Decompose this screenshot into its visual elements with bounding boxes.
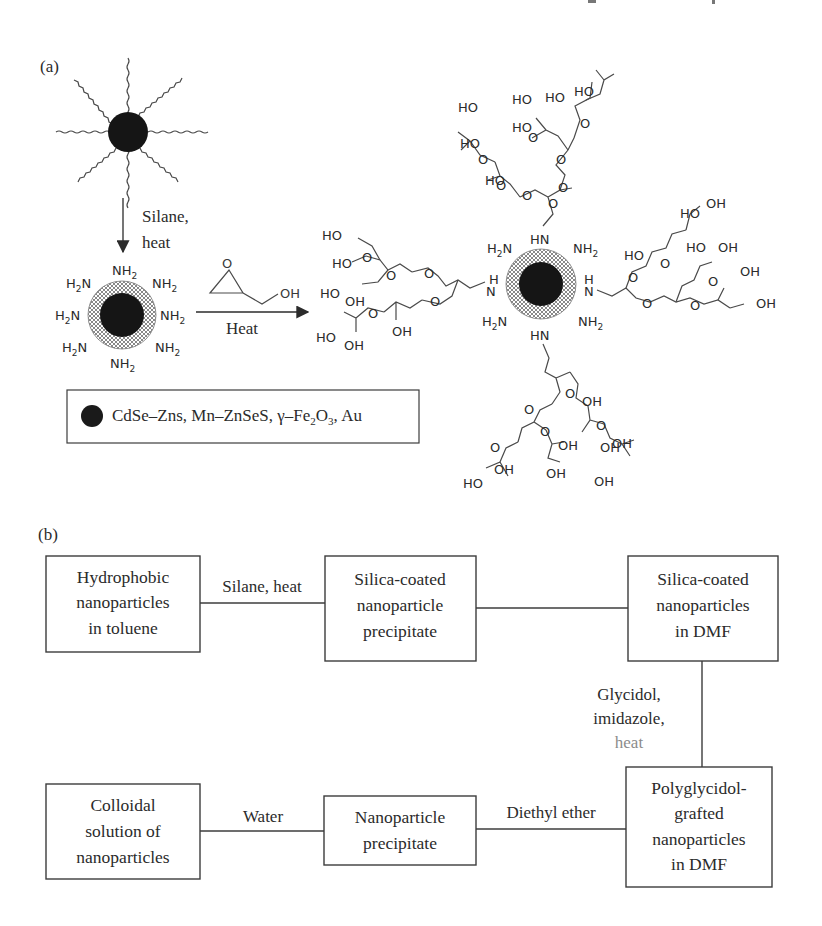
svg-text:O: O [708, 274, 718, 289]
svg-text:HO: HO [574, 84, 594, 99]
svg-text:H2N: H2N [62, 340, 87, 358]
svg-text:OH: OH [740, 264, 760, 279]
svg-text:O: O [628, 270, 638, 285]
svg-text:HO: HO [322, 228, 342, 243]
svg-text:O: O [424, 266, 434, 281]
svg-text:O: O [642, 296, 652, 311]
step2-condition: Heat [226, 319, 258, 338]
svg-text:nanoparticles: nanoparticles [76, 847, 169, 867]
svg-text:nanoparticle: nanoparticle [357, 595, 444, 615]
svg-text:O: O [540, 424, 550, 439]
svg-text:O: O [565, 386, 575, 401]
svg-text:HN: HN [530, 328, 550, 343]
svg-text:HO: HO [680, 206, 700, 221]
svg-text:O: O [558, 180, 568, 195]
figure-canvas: (a) Silane, heat NH2 NH2 NH2 NH2 NH2 H2N… [0, 0, 822, 926]
box-hydrophobic-nanoparticles: Hydrophobic nanoparticles in toluene [46, 556, 200, 652]
cropped-text-fragment [588, 0, 715, 4]
svg-text:NH2: NH2 [155, 340, 180, 358]
edge-label-silane-heat: Silane, heat [222, 577, 302, 596]
svg-text:OH: OH [756, 296, 776, 311]
svg-text:HO: HO [545, 90, 565, 105]
nanoparticle-core [519, 262, 563, 306]
svg-text:OH: OH [345, 294, 365, 309]
svg-text:O: O [386, 268, 396, 283]
svg-text:Colloidal: Colloidal [90, 795, 155, 815]
svg-text:HO: HO [332, 256, 352, 271]
svg-text:OH: OH [546, 466, 566, 481]
svg-text:NH2: NH2 [578, 314, 603, 332]
nanoparticle-core [100, 293, 144, 337]
core-legend: CdSe–Zns, Mn–ZnSeS, γ–Fe2O3, Au [67, 390, 419, 443]
svg-text:HO: HO [485, 173, 505, 188]
svg-text:H2N: H2N [55, 308, 80, 326]
svg-text:in toluene: in toluene [88, 618, 158, 638]
svg-text:OH: OH [392, 324, 412, 339]
svg-text:NH2: NH2 [110, 356, 135, 374]
svg-text:OH: OH [706, 196, 726, 211]
legend-text: CdSe–Zns, Mn–ZnSeS, γ–Fe2O3, Au [112, 406, 362, 427]
svg-text:H2N: H2N [66, 276, 91, 294]
svg-text:HO: HO [624, 248, 644, 263]
svg-text:HO: HO [316, 330, 336, 345]
svg-text:in DMF: in DMF [675, 621, 731, 641]
figure: (a) Silane, heat NH2 NH2 NH2 NH2 NH2 H2N… [0, 0, 822, 926]
svg-text:O: O [478, 152, 488, 167]
svg-text:precipitate: precipitate [363, 833, 437, 853]
svg-text:HO: HO [460, 136, 480, 151]
glycidol-structure: O OH [210, 256, 300, 304]
amine-nanoparticle: NH2 NH2 NH2 NH2 NH2 H2N H2N H2N [55, 263, 185, 374]
panel-a-label: (a) [40, 57, 59, 76]
svg-text:Silica-coated: Silica-coated [657, 569, 749, 589]
svg-text:nanoparticles: nanoparticles [652, 829, 745, 849]
svg-text:nanoparticles: nanoparticles [76, 592, 169, 612]
svg-text:Silica-coated: Silica-coated [354, 569, 446, 589]
svg-text:HN: HN [530, 232, 550, 247]
svg-text:HO: HO [686, 240, 706, 255]
svg-text:O: O [362, 250, 372, 265]
svg-text:OH: OH [344, 338, 364, 353]
edge-label-glycidol-3: heat [615, 733, 644, 752]
svg-text:O: O [222, 256, 232, 271]
step1-reagent-line2: heat [142, 233, 171, 252]
svg-text:O: O [490, 440, 500, 455]
edge-label-glycidol-1: Glycidol, [597, 685, 661, 704]
svg-text:H2N: H2N [482, 314, 507, 332]
svg-text:OH: OH [594, 474, 614, 489]
box-silica-coated-in-dmf: Silica-coated nanoparticles in DMF [628, 556, 778, 661]
svg-text:solution of: solution of [85, 821, 161, 841]
legend-dot-icon [81, 405, 103, 427]
svg-text:HO: HO [320, 286, 340, 301]
svg-text:HO: HO [463, 476, 483, 491]
svg-text:NH2: NH2 [573, 241, 598, 259]
svg-text:O: O [690, 298, 700, 313]
svg-text:O: O [580, 116, 590, 131]
svg-text:O: O [556, 152, 566, 167]
svg-text:OH: OH [280, 286, 300, 301]
box-nanoparticle-precipitate: Nanoparticle precipitate [324, 796, 476, 865]
svg-text:O: O [528, 130, 538, 145]
svg-text:O: O [660, 256, 670, 271]
svg-text:nanoparticles: nanoparticles [656, 595, 749, 615]
svg-text:O: O [430, 294, 440, 309]
svg-text:in DMF: in DMF [671, 854, 727, 874]
svg-text:H2N: H2N [487, 241, 512, 259]
svg-text:Nanoparticle: Nanoparticle [355, 807, 446, 827]
svg-text:grafted: grafted [674, 803, 724, 823]
svg-text:O: O [548, 196, 558, 211]
step1-reagent-line1: Silane, [142, 207, 189, 226]
svg-text:OH: OH [582, 394, 602, 409]
edge-label-diethyl-ether: Diethyl ether [506, 803, 596, 822]
svg-text:Polyglycidol-: Polyglycidol- [651, 778, 746, 798]
nanoparticle-core [108, 112, 148, 152]
svg-text:HO: HO [512, 92, 532, 107]
svg-text:NH2: NH2 [112, 263, 137, 281]
svg-text:N: N [584, 284, 594, 299]
panel-b-label: (b) [38, 525, 58, 544]
svg-text:HO: HO [458, 100, 478, 115]
box-colloidal-solution: Colloidal solution of nanoparticles [46, 784, 200, 879]
svg-text:OH: OH [494, 462, 514, 477]
edge-label-glycidol-2: imidazole, [593, 709, 664, 728]
hydrophobic-nanoparticle [56, 58, 208, 208]
svg-text:OH: OH [718, 240, 738, 255]
